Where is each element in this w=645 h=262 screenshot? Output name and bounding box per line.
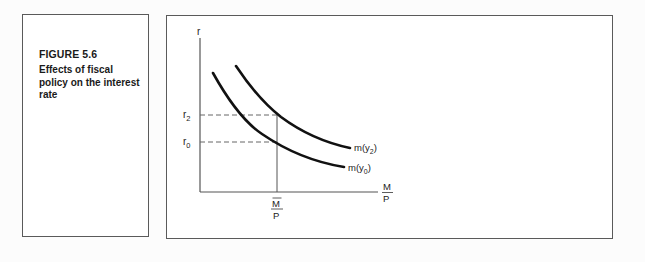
money-market-chart: r M P M P r2 r0 m(y2) m(y0): [0, 0, 645, 262]
x-axis-label-denominator: P: [383, 193, 389, 204]
r0-label: r0: [183, 136, 191, 150]
curve-m-y0-label: m(y0): [348, 162, 371, 175]
money-supply-label-denominator: P: [273, 210, 279, 221]
money-supply-label-numerator: M: [272, 198, 280, 209]
r2-label: r2: [183, 109, 191, 123]
x-axis-label-numerator: M: [383, 181, 391, 192]
curve-m-y2: [236, 66, 350, 148]
curve-m-y0: [213, 73, 344, 167]
y-axis-label: r: [197, 26, 201, 37]
curve-m-y2-label: m(y2): [354, 142, 377, 155]
